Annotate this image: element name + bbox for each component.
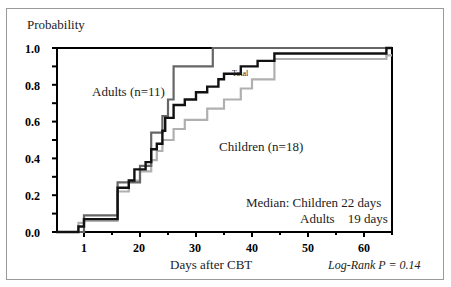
y-axis-label: Probability <box>27 17 85 33</box>
children-series-label: Children (n=18) <box>219 139 303 155</box>
adults-series-label: Adults (n=11) <box>92 84 165 100</box>
y-tick-label: 0.2 <box>25 189 45 204</box>
x-tick-label: 40 <box>237 241 267 256</box>
total-series-label: Total <box>232 69 248 78</box>
logrank-annotation: Log-Rank P = 0.14 <box>328 258 421 273</box>
y-tick-label: 1.0 <box>25 42 45 57</box>
y-tick-label: 0.8 <box>25 79 45 94</box>
x-tick-label: 30 <box>180 241 210 256</box>
y-tick-label: 0.6 <box>25 115 45 130</box>
median-annotation-adults: Adults 19 days <box>300 211 388 227</box>
median-annotation-children: Median: Children 22 days <box>246 195 381 211</box>
x-axis-label: Days after CBT <box>170 257 252 273</box>
y-tick-label: 0.0 <box>25 226 45 241</box>
x-tick-label: 60 <box>349 241 379 256</box>
x-tick-label: 1 <box>69 241 99 256</box>
y-tick-label: 0.4 <box>25 152 45 167</box>
x-tick-label: 50 <box>293 241 323 256</box>
x-tick-label: 20 <box>124 241 154 256</box>
